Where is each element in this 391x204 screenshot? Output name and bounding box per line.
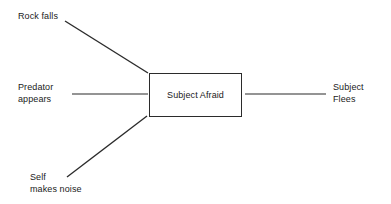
connector-self-makes-noise (67, 116, 147, 177)
node-box-subject-afraid: Subject Afraid (149, 73, 242, 117)
connector-rock-falls (65, 21, 148, 73)
node-label-rock-falls: Rock falls (18, 10, 58, 22)
node-label-self-makes-noise: Self makes noise (30, 171, 82, 195)
node-label-subject-flees: Subject Flees (333, 81, 364, 105)
diagram-canvas: Rock falls Predator appears Self makes n… (0, 0, 391, 204)
node-label-predator-appears: Predator appears (18, 81, 53, 105)
node-box-label-subject-afraid: Subject Afraid (167, 90, 224, 100)
